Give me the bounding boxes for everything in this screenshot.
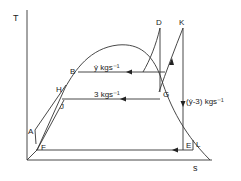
point-label-G: G xyxy=(163,90,169,99)
curve-G-K xyxy=(159,28,183,92)
arrow-left-icon xyxy=(172,148,178,153)
point-label-J: J xyxy=(60,102,64,111)
ts-diagram: T s D K B H J G A F E L ẏ kgs⁻¹ 3 kgs⁻¹ … xyxy=(0,0,241,181)
arrow-left-icon xyxy=(120,97,126,102)
point-label-B: B xyxy=(70,67,75,76)
point-label-L: L xyxy=(196,140,201,149)
flow-label-side: (ẏ-3) kgs⁻¹ xyxy=(186,97,224,106)
flow-label-upper: ẏ kgs⁻¹ xyxy=(94,63,120,72)
y-axis-label: T xyxy=(13,13,19,23)
point-label-H: H xyxy=(56,85,62,94)
arrow-down-icon xyxy=(181,101,186,107)
point-label-F: F xyxy=(41,143,46,152)
point-label-K: K xyxy=(179,18,185,27)
arrow-left-icon xyxy=(126,70,132,75)
flow-label-middle: 3 kgs⁻¹ xyxy=(94,90,120,99)
point-label-D: D xyxy=(156,18,162,27)
point-label-E: E xyxy=(186,141,191,150)
curve-to-D xyxy=(143,28,160,72)
x-axis-label: s xyxy=(193,163,198,173)
point-label-A: A xyxy=(28,127,34,136)
